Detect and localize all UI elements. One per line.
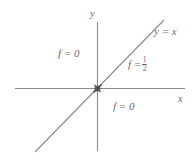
origin-marker-icon: [94, 84, 102, 92]
one-half-fraction: 12: [142, 56, 148, 73]
fraction-denominator: 2: [142, 65, 148, 73]
f-equals-zero-lower-label: f = 0: [113, 101, 134, 112]
f-equals-zero-upper-label: f = 0: [58, 48, 79, 59]
function-graph-figure: y x y = x f =12 f = 0 f = 0: [0, 0, 195, 166]
x-axis-label: x: [178, 94, 183, 105]
y-axis-label: y: [90, 9, 95, 20]
line-equation-label: y = x: [154, 26, 177, 37]
f-equals-one-half-label: f =12: [128, 56, 147, 73]
f-equals-one-half-lhs: f =: [128, 58, 141, 70]
